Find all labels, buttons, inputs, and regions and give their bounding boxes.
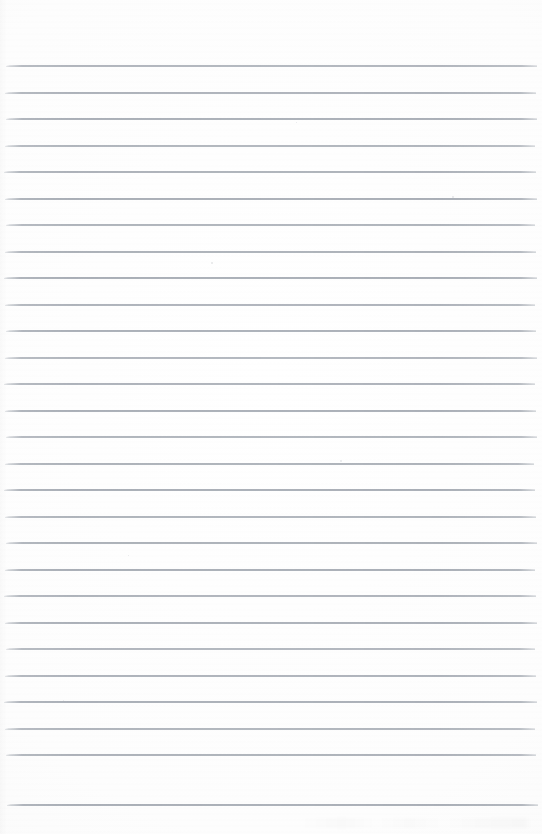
- rule-line: [5, 728, 535, 730]
- rule-line: [4, 383, 535, 385]
- rule-line: [5, 569, 535, 571]
- rule-line: [5, 516, 536, 518]
- rule-line: [5, 251, 536, 253]
- rule-line: [5, 622, 537, 624]
- rule-line: [5, 92, 536, 94]
- rule-line: [6, 754, 536, 756]
- rule-line: [5, 198, 537, 200]
- rule-line: [6, 436, 537, 438]
- rule-line: [7, 804, 538, 806]
- rule-line: [4, 277, 537, 279]
- rule-line: [6, 118, 537, 120]
- rule-line: [6, 330, 536, 332]
- ruled-lines-layer: [0, 0, 542, 834]
- scanned-page: [0, 0, 542, 834]
- rule-line: [4, 171, 536, 173]
- rule-line: [5, 675, 536, 677]
- rule-line: [4, 595, 536, 597]
- rule-line: [5, 357, 537, 359]
- rule-line: [6, 542, 537, 544]
- rule-line: [4, 701, 537, 703]
- rule-line: [6, 65, 537, 67]
- rule-line: [4, 489, 535, 491]
- rule-line: [5, 463, 534, 465]
- rule-line: [5, 145, 535, 147]
- rule-line: [6, 224, 535, 226]
- rule-line: [6, 648, 535, 650]
- rule-line: [5, 410, 536, 412]
- rule-line: [5, 304, 535, 306]
